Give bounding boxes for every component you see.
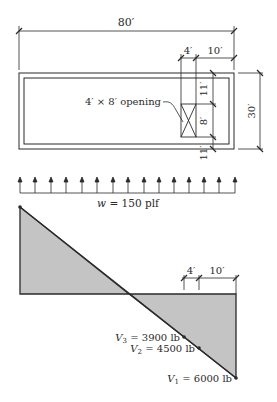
v1-point <box>234 376 238 380</box>
v1-label: V1 = 6000 lb <box>167 373 232 386</box>
dim-opening-height-label: 8′ <box>198 116 209 125</box>
shear-start-point <box>18 205 22 209</box>
plan-view: 80′ 4′ 10′ 4′ × 8′ opening <box>16 16 263 161</box>
dim-bottom-segment-label: 11′ <box>198 145 209 161</box>
dim-overall-length-label: 80′ <box>118 16 135 29</box>
dim-opening-offset-label: 4′ <box>184 45 193 56</box>
dim-top-segment-label: 11′ <box>198 81 209 97</box>
distributed-load <box>18 177 237 193</box>
diaphragm-diagram: 80′ 4′ 10′ 4′ × 8′ opening <box>0 0 277 402</box>
load-label: w = 150 plf <box>97 197 160 209</box>
opening <box>181 104 196 137</box>
shear-diagram: 4′ 10′ V3 = 3900 lb V2 = 4500 lb V1 = 60… <box>18 205 239 386</box>
dim-overall-length <box>16 26 237 70</box>
shear-dim <box>181 275 239 294</box>
opening-leader-line <box>163 102 183 122</box>
opening-label: 4′ × 8′ opening <box>85 96 162 107</box>
v3-point <box>182 335 186 339</box>
dim-width-label: 30′ <box>246 103 257 119</box>
dim-edge-distance-label: 10′ <box>208 45 224 56</box>
load-arrows <box>18 177 237 193</box>
shear-dim-left-label: 4′ <box>187 265 196 276</box>
v2-point <box>197 346 201 350</box>
v2-label: V2 = 4500 lb <box>130 343 195 356</box>
shear-dim-right-label: 10′ <box>210 265 226 276</box>
